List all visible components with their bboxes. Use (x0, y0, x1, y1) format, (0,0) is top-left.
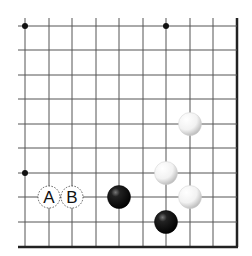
black-stone-icon (108, 186, 131, 209)
marker-label: B (66, 188, 77, 207)
go-board-diagram: AB (0, 0, 252, 256)
black-stone-icon (155, 211, 178, 234)
star-point-icon (22, 23, 28, 29)
marker-a: A (38, 186, 60, 208)
star-point-icon (22, 170, 28, 176)
board-grid (18, 18, 238, 247)
marker-label: A (43, 188, 55, 207)
marker-b: B (61, 186, 83, 208)
star-point-icon (163, 23, 169, 29)
white-stone-icon (179, 186, 202, 209)
white-stone-icon (179, 113, 202, 136)
white-stone-icon (155, 162, 178, 185)
